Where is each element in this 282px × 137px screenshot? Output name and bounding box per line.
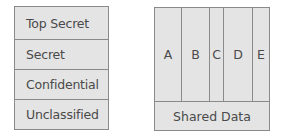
level-secret: Secret: [15, 40, 108, 70]
shared-data-section: Shared Data: [155, 101, 269, 130]
classification-levels-diagram: Top Secret Secret Confidential Unclassif…: [14, 6, 109, 130]
level-label: Secret: [26, 47, 65, 62]
level-label: Confidential: [26, 77, 99, 92]
compartment-c: C: [210, 8, 224, 101]
compartment-a: A: [155, 8, 182, 101]
level-top-secret: Top Secret: [15, 7, 108, 40]
compartment-label: E: [257, 47, 265, 62]
compartments-diagram: A B C D E Shared Data: [154, 7, 270, 131]
level-label: Unclassified: [26, 107, 99, 122]
compartment-label: A: [164, 47, 173, 62]
compartment-d: D: [224, 8, 253, 101]
compartment-b: B: [182, 8, 210, 101]
compartment-label: C: [212, 47, 221, 62]
shared-data-label: Shared Data: [173, 109, 251, 124]
compartment-e: E: [253, 8, 269, 101]
level-unclassified: Unclassified: [15, 100, 108, 129]
compartment-label: B: [191, 47, 200, 62]
level-label: Top Secret: [26, 16, 89, 31]
level-confidential: Confidential: [15, 70, 108, 100]
compartment-label: D: [233, 47, 243, 62]
